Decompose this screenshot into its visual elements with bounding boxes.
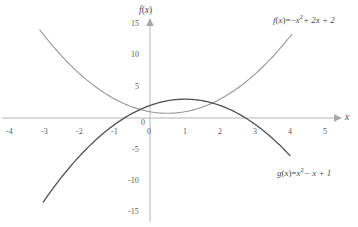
- curve-label-g: g(x)=x2− x + 1: [277, 169, 331, 178]
- y-tick-label-neg5: -5: [132, 146, 139, 154]
- x-axis-title: x: [345, 113, 349, 123]
- curve-label-f-rest: + 2x + 2: [303, 15, 335, 25]
- x-tick-label-neg4: -4: [6, 128, 13, 136]
- y-axis-title: f(x): [139, 6, 152, 16]
- y-axis-arrow-icon: [146, 18, 154, 26]
- curve-label-f: f(x)=−x2+ 2x + 2: [273, 16, 335, 25]
- x-tick-label-neg3: -3: [41, 128, 48, 136]
- x-tick-label-3: 3: [253, 128, 257, 136]
- y-tick-label-15: 15: [131, 20, 139, 28]
- y-tick-label-5: 5: [135, 83, 139, 91]
- y-axis-title-close: ): [149, 5, 152, 15]
- x-axis-arrow-icon: [334, 114, 342, 122]
- curve-f: [43, 99, 290, 202]
- y-tick-label-neg10: -10: [128, 177, 139, 185]
- curve-label-g-rest: − x + 1: [304, 168, 331, 178]
- x-tick-label-neg2: -2: [76, 128, 83, 136]
- x-tick-label-neg1: -1: [111, 128, 118, 136]
- origin-label-x: 0: [147, 128, 151, 136]
- x-tick-label-2: 2: [218, 128, 222, 136]
- origin-label-y: 0: [141, 119, 145, 127]
- y-tick-label-10: 10: [131, 51, 139, 59]
- x-tick-label-1: 1: [183, 128, 187, 136]
- graph-figure: f(x) x 15 10 5 -5 -10 -15 0 0 -4 -3 -2 -…: [0, 0, 358, 227]
- plot-canvas: [0, 0, 358, 227]
- x-tick-label-4: 4: [288, 128, 292, 136]
- x-tick-label-5: 5: [323, 128, 327, 136]
- y-tick-label-neg15: -15: [128, 208, 139, 216]
